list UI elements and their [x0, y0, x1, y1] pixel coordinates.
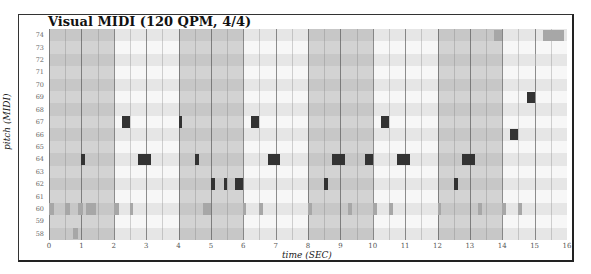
- midi-note: [510, 129, 518, 140]
- x-tick-label: 11: [401, 242, 410, 250]
- midi-note: [478, 203, 482, 214]
- midi-note: [122, 116, 130, 127]
- midi-note: [259, 203, 263, 214]
- midi-note: [65, 203, 70, 214]
- x-tick-label: 9: [338, 242, 342, 250]
- midi-note: [324, 178, 328, 189]
- x-tick-label: 0: [47, 242, 51, 250]
- y-tick-label: 67: [28, 118, 44, 126]
- x-tick-label: 12: [433, 242, 442, 250]
- x-tick-label: 16: [563, 242, 572, 250]
- midi-note: [527, 92, 535, 103]
- beat-gridline: [454, 29, 455, 240]
- beat-gridline: [357, 29, 358, 240]
- midi-note: [130, 203, 133, 214]
- y-tick-label: 74: [28, 31, 44, 39]
- beat-gridline: [324, 29, 325, 240]
- y-tick-label: 66: [28, 131, 44, 139]
- y-tick-label: 68: [28, 106, 44, 114]
- y-tick-label: 59: [28, 217, 44, 225]
- x-tick-label: 3: [144, 242, 148, 250]
- x-tick-label: 7: [273, 242, 277, 250]
- x-tick-label: 4: [176, 242, 180, 250]
- midi-note: [211, 178, 215, 189]
- midi-note: [114, 203, 119, 214]
- x-tick-label: 8: [306, 242, 310, 250]
- midi-note: [81, 154, 84, 165]
- midi-note: [224, 178, 227, 189]
- midi-note: [462, 154, 475, 165]
- beat-gridline: [292, 29, 293, 240]
- chart-title: Visual MIDI (120 QPM, 4/4): [48, 14, 251, 29]
- y-tick-label: 70: [28, 81, 44, 89]
- midi-note: [397, 154, 410, 165]
- y-tick-label: 72: [28, 56, 44, 64]
- midi-note: [268, 154, 281, 165]
- beat-gridline: [179, 29, 180, 240]
- midi-note: [78, 203, 83, 214]
- x-tick-label: 10: [368, 242, 377, 250]
- beat-gridline: [276, 29, 277, 240]
- beat-gridline: [421, 29, 422, 240]
- y-tick-label: 60: [28, 205, 44, 213]
- y-tick-label: 65: [28, 143, 44, 151]
- beat-gridline: [211, 29, 212, 240]
- midi-note: [308, 203, 312, 214]
- midi-note: [179, 116, 183, 127]
- x-tick-label: 14: [498, 242, 507, 250]
- midi-note: [195, 154, 199, 165]
- midi-note: [518, 203, 522, 214]
- beat-gridline: [470, 29, 471, 240]
- midi-note: [502, 203, 506, 214]
- midi-note: [49, 203, 54, 214]
- midi-note: [365, 154, 373, 165]
- beat-gridline: [405, 29, 406, 240]
- midi-note: [332, 154, 345, 165]
- x-tick-label: 15: [530, 242, 539, 250]
- midi-note: [251, 116, 259, 127]
- piano-roll-plot: [49, 29, 567, 240]
- midi-note: [86, 203, 96, 214]
- beat-gridline: [551, 29, 552, 240]
- midi-note: [535, 54, 537, 65]
- y-tick-label: 69: [28, 93, 44, 101]
- x-tick-label: 5: [209, 242, 213, 250]
- x-tick-label: 2: [112, 242, 116, 250]
- y-tick-label: 61: [28, 193, 44, 201]
- y-tick-label: 63: [28, 168, 44, 176]
- beat-gridline: [98, 29, 99, 240]
- x-tick-label: 6: [241, 242, 245, 250]
- midi-note: [73, 228, 78, 239]
- x-tick-label: 13: [465, 242, 474, 250]
- midi-note: [543, 30, 564, 41]
- y-tick-label: 62: [28, 180, 44, 188]
- midi-note: [348, 203, 352, 214]
- midi-note: [235, 178, 243, 189]
- beat-gridline: [227, 29, 228, 240]
- y-axis-title: pitch (MIDI): [2, 93, 12, 150]
- y-tick-label: 64: [28, 155, 44, 163]
- midi-note: [454, 178, 458, 189]
- midi-note: [203, 203, 211, 214]
- midi-note: [494, 30, 502, 41]
- y-tick-label: 73: [28, 44, 44, 52]
- midi-note: [381, 116, 389, 127]
- y-tick-label: 71: [28, 68, 44, 76]
- midi-note: [138, 154, 151, 165]
- beat-gridline: [146, 29, 147, 240]
- midi-note: [389, 203, 393, 214]
- x-tick-label: 1: [79, 242, 83, 250]
- beat-gridline: [195, 29, 196, 240]
- midi-note: [438, 203, 442, 214]
- beat-gridline: [340, 29, 341, 240]
- midi-note: [243, 203, 246, 214]
- beat-gridline: [486, 29, 487, 240]
- midi-note: [373, 203, 377, 214]
- y-tick-label: 58: [28, 230, 44, 238]
- beat-gridline: [162, 29, 163, 240]
- x-axis-title: time (SEC): [282, 250, 332, 260]
